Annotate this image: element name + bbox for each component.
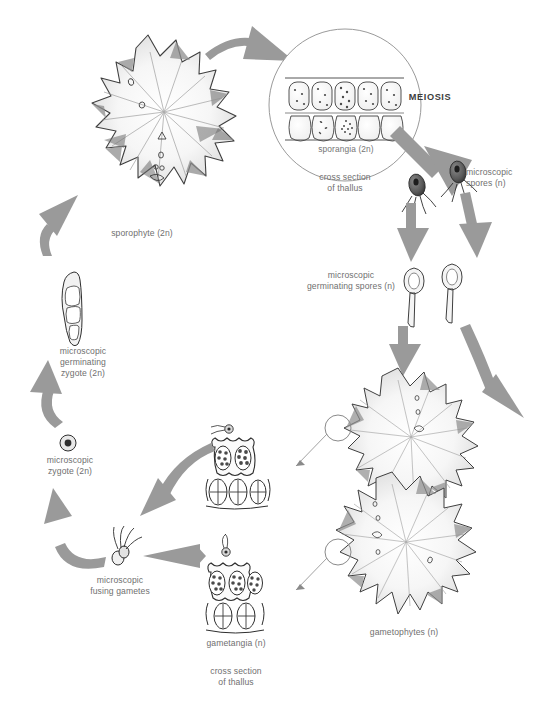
label-sporophyte: sporophyte (2n) bbox=[82, 228, 202, 239]
label-sporangia: sporangia (2n) bbox=[288, 144, 404, 155]
arrow-germinating-to-gametophyte-left bbox=[389, 326, 421, 376]
label-germinating-spores: microscopic germinating spores (n) bbox=[285, 270, 417, 292]
arrow-gametes-to-zygote bbox=[44, 488, 106, 569]
label-cross-section-top: cross section of thallus bbox=[280, 172, 410, 194]
gamete-upper bbox=[211, 425, 233, 434]
zygote-illustration bbox=[60, 435, 76, 451]
callout-lower-gametangia bbox=[296, 539, 351, 590]
label-gametophytes: gametophytes (n) bbox=[336, 627, 472, 638]
sporangia-inset bbox=[269, 29, 421, 181]
label-meiosis: MEIOSIS bbox=[390, 92, 470, 103]
label-gametangia: gametangia (n) bbox=[178, 638, 294, 649]
label-microscopic-spores: microscopic spores (n) bbox=[466, 167, 538, 189]
germinating-zygote-illustration bbox=[62, 272, 82, 346]
label-germinating-zygote: microscopic germinating zygote (2n) bbox=[38, 346, 128, 380]
gametophyte-thallus-lower bbox=[336, 472, 476, 614]
label-zygote: microscopic zygote (2n) bbox=[20, 455, 120, 477]
fusing-gametes-illustration bbox=[112, 526, 142, 565]
arrow-germinating-to-gametophyte-right bbox=[460, 324, 524, 418]
gamete-lower bbox=[222, 534, 230, 556]
arrow-gametangia-upper-to-gametes bbox=[140, 443, 215, 516]
label-fusing-gametes: microscopic fusing gametes bbox=[62, 575, 178, 597]
gametangia-upper-illustration bbox=[206, 425, 270, 509]
arrow-spores-to-germinating-right bbox=[459, 192, 492, 258]
gametangia-lower-illustration bbox=[206, 534, 264, 633]
label-cross-section-bottom: cross section of thallus bbox=[178, 666, 294, 688]
arrow-sporophyte-to-sporangia bbox=[205, 26, 294, 61]
germinating-spore-2 bbox=[442, 264, 462, 323]
callout-upper-gametangia bbox=[296, 415, 351, 466]
life-cycle-diagram: sporophyte (2n) sporangia (2n) cross sec… bbox=[0, 0, 541, 716]
sporophyte-thallus-illustration bbox=[92, 35, 236, 186]
arrow-germinating-zygote-to-sporophyte bbox=[39, 195, 78, 256]
arrow-gametangia-lower-to-gametes bbox=[143, 544, 206, 568]
